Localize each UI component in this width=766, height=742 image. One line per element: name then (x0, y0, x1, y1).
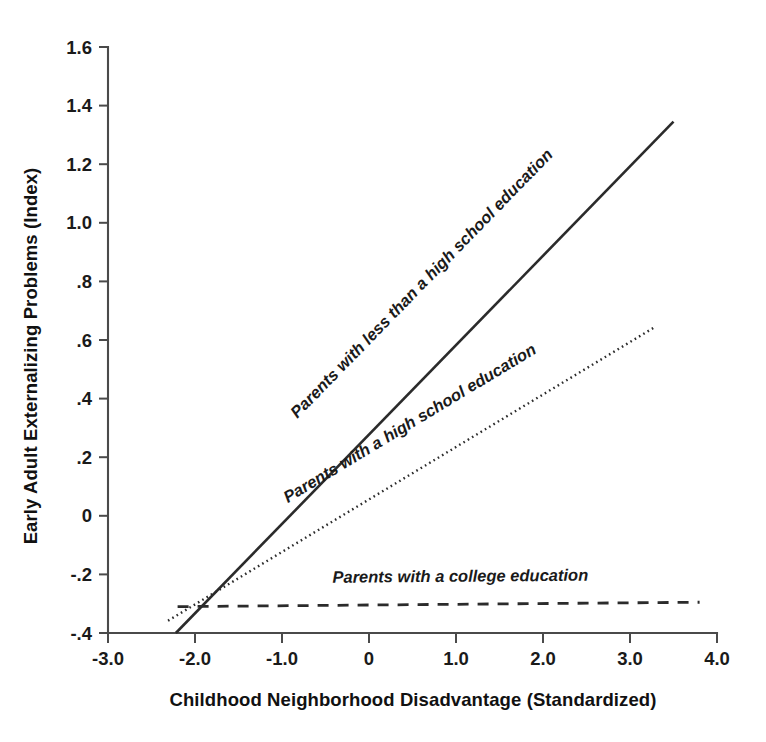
x-axis-tick-label: 1.0 (443, 648, 469, 669)
x-axis-tick-label: 0 (364, 648, 374, 669)
y-axis-tick-label: -.2 (70, 564, 92, 585)
chart-background (0, 0, 766, 742)
y-axis-tick-label: 1.0 (66, 212, 92, 233)
y-axis-tick-label: -.4 (70, 623, 92, 644)
y-axis-tick-label: 1.4 (66, 95, 92, 116)
y-axis-tick-label: .6 (77, 330, 92, 351)
y-axis-tick-label: 1.2 (66, 154, 92, 175)
y-axis-tick-label: 0 (82, 505, 92, 526)
y-axis-tick-label: .8 (77, 271, 92, 292)
y-axis-tick-label: 1.6 (66, 37, 92, 58)
line-chart-svg: -.4-.20.2.4.6.81.01.21.41.6 -3.0-2.0-1.0… (0, 0, 766, 742)
x-axis-tick-label: 2.0 (530, 648, 556, 669)
chart-figure: -.4-.20.2.4.6.81.01.21.41.6 -3.0-2.0-1.0… (0, 0, 766, 742)
series-label: Parents with a college education (332, 566, 588, 586)
y-axis-tick-label: .4 (77, 388, 93, 409)
x-axis-title: Childhood Neighborhood Disadvantage (Sta… (169, 689, 656, 710)
y-axis-title: Early Adult Externalizing Problems (Inde… (20, 168, 41, 545)
x-axis-tick-label: -3.0 (92, 648, 124, 669)
x-axis-tick-label: -1.0 (266, 648, 298, 669)
x-axis-tick-label: 4.0 (704, 648, 730, 669)
x-axis-tick-label: 3.0 (617, 648, 643, 669)
x-axis-tick-label: -2.0 (179, 648, 211, 669)
y-axis-tick-label: .2 (77, 447, 92, 468)
